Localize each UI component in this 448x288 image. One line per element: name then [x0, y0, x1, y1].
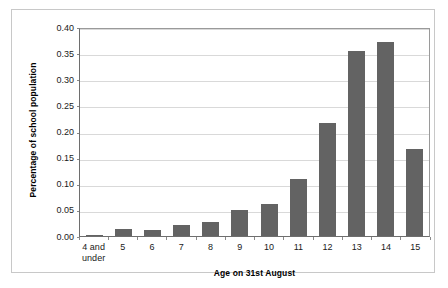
bar-slot: [313, 29, 342, 236]
bar[interactable]: [348, 51, 365, 236]
x-tick-cell: [313, 237, 342, 241]
x-axis-tick-mark: [79, 237, 80, 240]
bar[interactable]: [231, 210, 248, 236]
x-tick-cell: [79, 237, 108, 241]
x-tick-cell: [108, 237, 137, 241]
y-axis-tick-label: 0.25: [56, 102, 74, 111]
bar-slot: [196, 29, 225, 236]
bar-slot: [342, 29, 371, 236]
bar-slot: [138, 29, 167, 236]
plot-area: [79, 28, 430, 237]
y-axis-tick-label: 0.00: [56, 233, 74, 242]
bar[interactable]: [377, 42, 394, 236]
x-axis-tick-mark: [313, 237, 314, 240]
bar-slot: [371, 29, 400, 236]
x-axis-tick-mark: [400, 237, 401, 240]
y-axis-tick-label: 0.05: [56, 206, 74, 215]
bars-layer: [80, 29, 429, 236]
y-axis-tick-label: 0.15: [56, 154, 74, 163]
bar[interactable]: [261, 204, 278, 236]
x-axis-tick-mark: [371, 237, 372, 240]
x-axis-tick-mark: [196, 237, 197, 240]
chart-screenshot: Percentage of school population 0.400.35…: [0, 0, 448, 288]
bar-slot: [400, 29, 429, 236]
x-axis-tick-mark: [137, 237, 138, 240]
y-axis-tick-label: 0.10: [56, 180, 74, 189]
x-tick-cell: [255, 237, 284, 241]
bar[interactable]: [86, 235, 103, 237]
bar-slot: [109, 29, 138, 236]
x-tick-cell: [196, 237, 225, 241]
x-tick-cell: [284, 237, 313, 241]
bar-slot: [284, 29, 313, 236]
x-axis-tick-mark: [430, 237, 431, 240]
x-tick-cell: [342, 237, 371, 241]
x-tick-cell: [167, 237, 196, 241]
y-axis-tick-label: 0.30: [56, 76, 74, 85]
x-tick-cell: [401, 237, 430, 241]
bar-slot: [225, 29, 254, 236]
x-axis-title: Age on 31st August: [79, 268, 430, 278]
bar[interactable]: [144, 230, 161, 236]
bar[interactable]: [202, 222, 219, 236]
bar[interactable]: [115, 229, 132, 236]
y-axis-tick-labels: 0.400.350.300.250.200.150.100.050.00: [38, 24, 76, 237]
y-axis-tick-label: 0.20: [56, 128, 74, 137]
y-axis-tick-label: 0.40: [56, 24, 74, 33]
x-axis-tick-mark: [225, 237, 226, 240]
x-axis-tick-mark: [342, 237, 343, 240]
bar-slot: [80, 29, 109, 236]
x-tick-cell: [372, 237, 401, 241]
x-axis-tick-mark: [283, 237, 284, 240]
x-axis-tick-mark: [166, 237, 167, 240]
bar[interactable]: [290, 179, 307, 236]
bar-slot: [167, 29, 196, 236]
chart-frame: Percentage of school population 0.400.35…: [11, 9, 435, 273]
x-tick-cell: [138, 237, 167, 241]
bar[interactable]: [173, 225, 190, 236]
x-axis-tick-marks: [79, 237, 430, 241]
x-axis-tick-mark: [108, 237, 109, 240]
bar[interactable]: [406, 149, 423, 236]
bar[interactable]: [319, 123, 336, 236]
x-tick-cell: [225, 237, 254, 241]
bar-slot: [254, 29, 283, 236]
x-axis-tick-mark: [254, 237, 255, 240]
y-axis-tick-label: 0.35: [56, 50, 74, 59]
